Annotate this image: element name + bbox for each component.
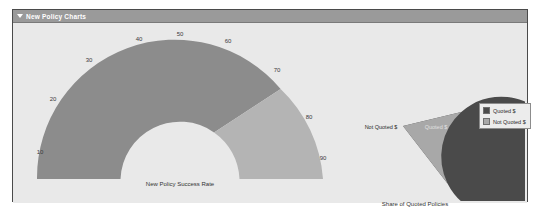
legend-swatch-not-quoted [483,118,490,125]
gauge-tick-80: 80 [306,114,313,120]
legend-swatch-quoted [483,107,490,114]
panel-title-bar[interactable]: New Policy Charts [13,10,527,23]
gauge-svg: 10 20 30 40 50 60 70 80 90 [27,27,333,199]
charts-container: 10 20 30 40 50 60 70 80 90 New Policy Su… [13,23,527,203]
gauge-tick-30: 30 [86,57,93,63]
gauge-tick-40: 40 [136,36,143,42]
gauge-tick-10: 10 [37,149,44,155]
pie-chart: Not Quoted $ Quoted $ Quoted $ Not Quote… [335,51,525,201]
triangle-down-icon[interactable] [17,14,23,18]
legend-item-not-quoted[interactable]: Not Quoted $ [483,118,526,125]
legend-item-quoted[interactable]: Quoted $ [483,107,526,114]
new-policy-charts-panel: New Policy Charts 10 20 30 40 50 60 70 8… [12,9,528,202]
gauge-tick-50: 50 [177,31,184,37]
gauge-tick-60: 60 [225,38,232,44]
pie-title: Share of Quoted Policies [345,201,485,207]
pie-label-not-quoted: Not Quoted $ [365,124,398,130]
gauge-title: New Policy Success Rate [27,181,333,187]
legend-label-quoted: Quoted $ [493,108,516,114]
gauge-tick-70: 70 [274,67,281,73]
gauge-tick-20: 20 [50,96,57,102]
legend-label-not-quoted: Not Quoted $ [493,119,526,125]
pie-legend: Quoted $ Not Quoted $ [479,103,531,129]
pie-label-quoted: Quoted $ [425,124,448,130]
gauge-tick-90: 90 [320,155,327,161]
panel-title-text: New Policy Charts [26,13,86,20]
gauge-chart: 10 20 30 40 50 60 70 80 90 New Policy Su… [27,27,333,199]
